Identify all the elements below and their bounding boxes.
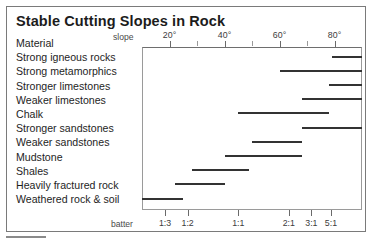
slope-tick-minor (307, 41, 308, 46)
range-bar (280, 70, 363, 72)
range-bar (302, 127, 363, 129)
range-bar (142, 198, 183, 200)
slope-tick-label: 40° (218, 30, 231, 40)
slope-tick-label: 80° (328, 30, 341, 40)
batter-tick-label: 1:3 (159, 218, 171, 228)
material-row-label: Stronger sandstones (16, 121, 141, 135)
range-bar (175, 183, 225, 185)
caption-rule (6, 236, 46, 238)
range-bar (302, 98, 363, 100)
batter-tick-label: 3:1 (305, 218, 317, 228)
material-row-label: Chalk (16, 107, 141, 121)
batter-tick-label: 1:1 (232, 218, 244, 228)
batter-axis-caption: batter (111, 219, 133, 229)
material-row-label: Weaker sandstones (16, 135, 141, 149)
material-row-label: Stronger limestones (16, 79, 141, 93)
slope-tick-minor (197, 41, 198, 46)
material-row-label: Weaker limestones (16, 93, 141, 107)
material-row-label: Strong igneous rocks (16, 50, 141, 64)
slope-tick-label: 20° (163, 30, 176, 40)
batter-axis-ticks (142, 210, 363, 217)
batter-tick (165, 210, 166, 216)
range-bar (225, 155, 302, 157)
slope-tick-label: 60° (273, 30, 286, 40)
bar-series (142, 47, 362, 210)
batter-tick (188, 210, 189, 216)
range-bar (332, 56, 362, 58)
batter-tick (289, 210, 290, 216)
figure-root: Stable Cutting Slopes in Rock slope batt… (0, 0, 374, 242)
range-bar (238, 112, 329, 114)
material-label-column: MaterialStrong igneous rocksStrong metam… (16, 36, 141, 206)
material-column-header: Material (16, 36, 141, 50)
material-row-label: Weathered rock & soil (16, 192, 141, 206)
range-bar (252, 141, 302, 143)
material-row-label: Mudstone (16, 150, 141, 164)
range-bar (192, 169, 250, 171)
range-bar (329, 84, 362, 86)
material-row-label: Shales (16, 164, 141, 178)
batter-tick-label: 5:1 (325, 218, 337, 228)
batter-tick-label: 1:2 (182, 218, 194, 228)
batter-tick (331, 210, 332, 216)
batter-tick-label-row: 1:31:21:12:13:15:1 (142, 218, 363, 230)
batter-tick (311, 210, 312, 216)
batter-tick-label: 2:1 (283, 218, 295, 228)
batter-tick (238, 210, 239, 216)
slope-tick-minor (252, 41, 253, 46)
material-row-label: Heavily fractured rock (16, 178, 141, 192)
material-row-label: Strong metamorphics (16, 64, 141, 78)
figure-title: Stable Cutting Slopes in Rock (16, 13, 225, 29)
